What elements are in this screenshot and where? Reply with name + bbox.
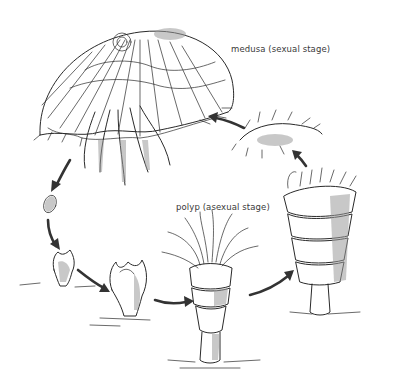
arrow-larva-to-young-polyp [78, 270, 104, 288]
strobila-illustration [284, 168, 360, 315]
ephyra-illustration [232, 110, 322, 158]
arrow-polyp-to-strobila [250, 276, 288, 295]
life-cycle-illustration [0, 0, 402, 383]
arrow-young-polyp-to-polyp [155, 300, 186, 303]
arrow-medusa-to-planula [56, 160, 70, 186]
medusa-illustration [34, 28, 234, 185]
polyp-label: polyp (asexual stage) [176, 202, 270, 212]
arrow-ephyra-to-medusa [216, 118, 244, 128]
polyp-illustration [162, 210, 260, 368]
settled-larva-illustration [20, 250, 95, 287]
young-polyp-illustration [90, 260, 150, 326]
medusa-label: medusa (sexual stage) [231, 44, 330, 54]
life-cycle-diagram: medusa (sexual stage) polyp (asexual sta… [0, 0, 402, 383]
planula-larva-illustration [41, 193, 58, 214]
